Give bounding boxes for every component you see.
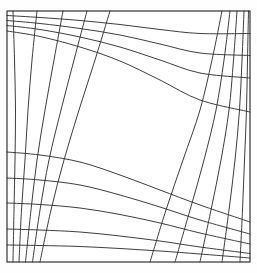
figure-root bbox=[0, 0, 257, 273]
curvilinear-grid-svg bbox=[0, 0, 257, 273]
